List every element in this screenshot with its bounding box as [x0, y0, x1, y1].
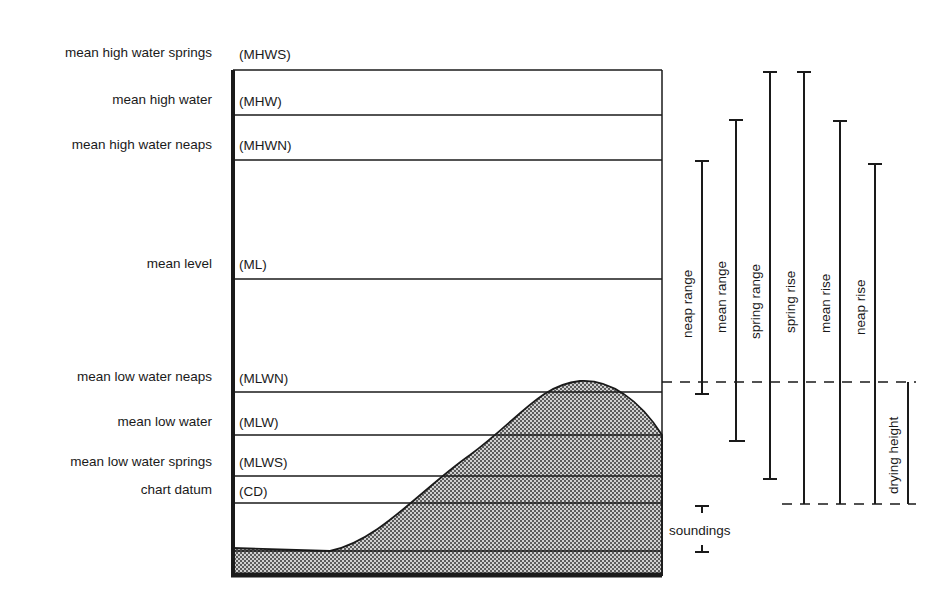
measure-neap-range: [695, 161, 709, 394]
level-abbr-mlw: (MLW): [239, 415, 279, 430]
label-neap-range: neap range: [680, 270, 695, 338]
label-drying-height: drying height: [886, 416, 901, 494]
measure-spring-rise: [797, 72, 811, 504]
level-abbr-ml: (ML): [239, 257, 267, 272]
level-name-cd: chart datum: [141, 482, 212, 497]
level-abbr-mhw: (MHW): [239, 94, 282, 109]
label-spring-range: spring range: [748, 264, 763, 339]
level-name-ml: mean level: [147, 256, 212, 271]
level-abbr-cd: (CD): [239, 484, 268, 499]
level-abbr-mhwn: (MHWN): [239, 138, 291, 153]
soundings-label: soundings: [669, 523, 731, 538]
level-name-mhwn: mean high water neaps: [72, 137, 213, 152]
label-mean-rise: mean rise: [818, 274, 833, 333]
measure-mean-rise: [833, 121, 847, 504]
label-neap-rise: neap rise: [853, 279, 868, 335]
tidal-levels-diagram: mean high water springs mean high water …: [0, 0, 934, 597]
measure-spring-range: [763, 72, 777, 479]
level-abbr-mlwn: (MLWN): [239, 371, 288, 386]
level-name-mhw: mean high water: [112, 92, 212, 107]
measure-mean-range: [729, 120, 745, 441]
level-name-mhws: mean high water springs: [65, 45, 212, 60]
seabed-profile: [232, 381, 662, 575]
level-abbr-mlws: (MLWS): [239, 455, 288, 470]
level-name-mlw: mean low water: [117, 414, 212, 429]
level-name-mlwn: mean low water neaps: [77, 369, 212, 384]
level-abbr-mhws: (MHWS): [239, 47, 291, 62]
label-mean-range: mean range: [714, 261, 729, 333]
level-name-mlws: mean low water springs: [70, 454, 212, 469]
label-spring-rise: spring rise: [783, 271, 798, 333]
measure-neap-rise: [868, 164, 882, 504]
